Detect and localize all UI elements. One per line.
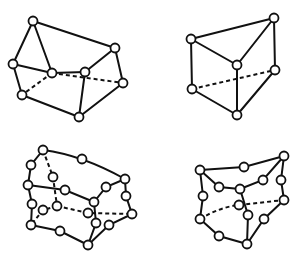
edge: [200, 219, 247, 244]
node-circle-icon: [84, 241, 93, 250]
node-circle-icon: [18, 91, 27, 100]
node-circle-icon: [259, 176, 268, 185]
node-circle-icon: [121, 175, 130, 184]
node-circle-icon: [196, 215, 205, 224]
node-circle-icon: [187, 35, 196, 44]
edge: [191, 39, 192, 89]
node-circle-icon: [81, 68, 90, 77]
node-circle-icon: [280, 152, 289, 161]
node-circle-icon: [75, 113, 84, 122]
node-circle-icon: [39, 146, 48, 155]
node-circle-icon: [78, 155, 87, 164]
node-circle-icon: [236, 185, 245, 194]
edge: [192, 89, 237, 115]
node-circle-icon: [280, 196, 289, 205]
node-circle-icon: [53, 202, 62, 211]
edge: [79, 72, 85, 117]
node-circle-icon: [233, 111, 242, 120]
node-circle-icon: [128, 210, 137, 219]
edge: [13, 21, 33, 64]
node-circle-icon: [271, 66, 280, 75]
node-circle-icon: [56, 227, 65, 236]
node-circle-icon: [243, 240, 252, 249]
node-circle-icon: [92, 219, 101, 228]
node-circle-icon: [111, 44, 120, 53]
shape-bottom-left: [24, 146, 137, 250]
node-circle-icon: [39, 206, 48, 215]
node-circle-icon: [277, 176, 286, 185]
node-circle-icon: [102, 183, 111, 192]
node-circle-icon: [28, 200, 37, 209]
node-circle-icon: [199, 192, 208, 201]
node-circle-icon: [49, 173, 58, 182]
node-circle-icon: [61, 186, 70, 195]
finite-element-diagram: [0, 0, 302, 257]
node-circle-icon: [119, 79, 128, 88]
node-circle-icon: [244, 211, 253, 220]
edge: [33, 21, 52, 73]
edge: [22, 95, 79, 117]
node-circle-icon: [27, 161, 36, 170]
shape-top-right: [187, 14, 280, 120]
node-circle-icon: [260, 215, 269, 224]
edge: [13, 64, 52, 73]
edge: [274, 18, 275, 70]
edge: [85, 48, 115, 72]
edge: [191, 18, 274, 39]
node-circle-icon: [196, 166, 205, 175]
node-circle-icon: [84, 209, 93, 218]
node-circle-icon: [240, 163, 249, 172]
node-circle-icon: [188, 85, 197, 94]
node-circle-icon: [122, 192, 131, 201]
node-circle-icon: [105, 221, 114, 230]
edge: [79, 83, 123, 117]
node-circle-icon: [215, 183, 224, 192]
node-circle-icon: [233, 61, 242, 70]
node-circle-icon: [29, 17, 38, 26]
node-circle-icon: [270, 14, 279, 23]
edge: [191, 39, 237, 65]
node-circle-icon: [27, 221, 36, 230]
node-circle-icon: [90, 198, 99, 207]
shape-bottom-right: [196, 152, 289, 249]
node-circle-icon: [24, 181, 33, 190]
node-circle-icon: [235, 201, 244, 210]
shape-top-left: [9, 17, 128, 122]
edge: [33, 21, 115, 48]
hidden-edge: [22, 73, 52, 95]
node-circle-icon: [9, 60, 18, 69]
node-circle-icon: [215, 232, 224, 241]
node-circle-icon: [48, 69, 57, 78]
